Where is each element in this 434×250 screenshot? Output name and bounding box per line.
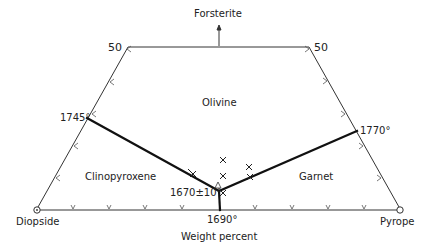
diopside-label: Diopside [16,217,59,227]
outline [38,47,399,210]
boundary-garnet-olivine [219,131,357,191]
temp-1745-label: 1745° [60,113,90,123]
field-olivine-label: Olivine [202,98,237,108]
temp-1690-label: 1690° [207,215,237,225]
temp-1770-label: 1770° [360,126,390,136]
phase-boundaries [87,118,357,210]
field-clinopyroxene-label: Clinopyroxene [85,172,156,182]
temp-1670-label: 1670±10° [170,188,222,198]
right-edge-ticks [305,46,381,181]
axis-label: Weight percent [181,232,257,242]
pyrope-label: Pyrope [380,217,414,227]
field-garnet-label: Garnet [299,172,333,182]
forsterite-arrow-icon [217,25,221,46]
x-marker-icon [220,157,226,163]
pyrope-point-icon [397,207,403,213]
base-ticks [71,205,366,209]
left-50-label: 50 [108,42,122,53]
right-50-label: 50 [314,42,328,53]
forsterite-label: Forsterite [194,9,242,19]
x-marker-icon [220,173,226,179]
x-marker-icon [246,164,252,170]
left-edge [38,47,128,207]
